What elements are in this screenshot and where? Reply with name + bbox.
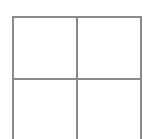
two-by-two-grid bbox=[12, 16, 142, 139]
grid-line-left bbox=[12, 16, 14, 139]
grid-line-right bbox=[140, 16, 142, 139]
grid-cell-bottom-left bbox=[14, 81, 76, 139]
grid-cell-top-right bbox=[78, 18, 140, 78]
grid-line-middle-vertical bbox=[76, 16, 78, 139]
grid-cell-top-left bbox=[14, 18, 76, 78]
grid-cell-bottom-right bbox=[78, 81, 140, 139]
